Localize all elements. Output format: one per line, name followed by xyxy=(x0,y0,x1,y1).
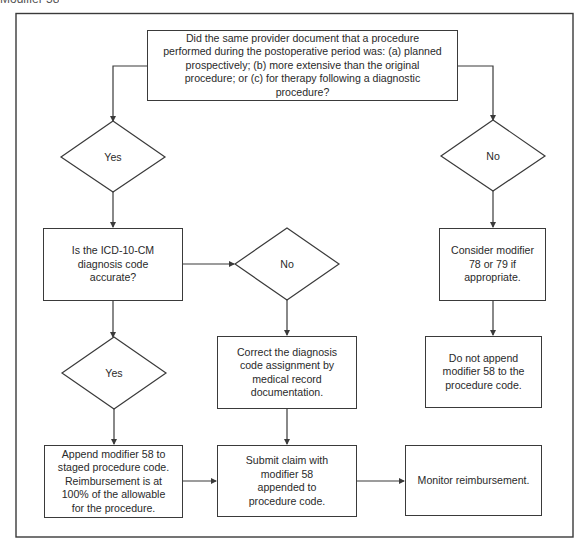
append-modifier-text: Append modifier 58 to staged procedure c… xyxy=(55,448,172,516)
decision-label-no-right: No xyxy=(486,150,500,162)
decision-label-no-middle: No xyxy=(280,258,294,270)
monitor-reimbursement-box: Monitor reimbursement. xyxy=(405,445,542,516)
icd-question-box: Is the ICD-10-CM diagnosis code accurate… xyxy=(43,228,183,301)
icd-question-text: Is the ICD-10-CM diagnosis code accurate… xyxy=(58,244,168,285)
submit-claim-box: Submit claim with modifier 58 appended t… xyxy=(217,445,357,517)
append-modifier-box: Append modifier 58 to staged procedure c… xyxy=(44,445,183,518)
do-not-append-text: Do not append modifier 58 to the procedu… xyxy=(434,352,533,393)
decision-label-yes-2: Yes xyxy=(105,367,122,379)
decision-label-yes-1: Yes xyxy=(104,151,121,163)
question-text: Did the same provider document that a pr… xyxy=(162,32,443,100)
monitor-reimbursement-text: Monitor reimbursement. xyxy=(418,474,530,488)
correct-code-box: Correct the diagnosis code assignment by… xyxy=(217,336,357,409)
question-box: Did the same provider document that a pr… xyxy=(147,30,458,101)
correct-code-text: Correct the diagnosis code assignment by… xyxy=(224,346,350,400)
consider-modifier-box: Consider modifier 78 or 79 if appropriat… xyxy=(439,228,546,301)
submit-claim-text: Submit claim with modifier 58 appended t… xyxy=(240,454,334,508)
do-not-append-box: Do not append modifier 58 to the procedu… xyxy=(425,336,542,408)
consider-modifier-text: Consider modifier 78 or 79 if appropriat… xyxy=(450,244,535,285)
